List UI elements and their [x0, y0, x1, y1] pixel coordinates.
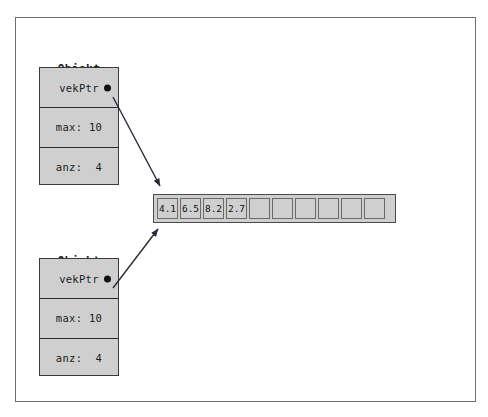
objekt-a-box: vekPtr max: 10 anz: 4	[39, 67, 119, 185]
objekt-b-vekptr-label: vekPtr	[59, 273, 99, 285]
array-cell	[295, 198, 316, 219]
objekt-b-row-anz: anz: 4	[40, 338, 118, 377]
array-cell	[341, 198, 362, 219]
array-cell	[318, 198, 339, 219]
array-cell	[249, 198, 270, 219]
objekt-b-max-value: max: 10	[56, 312, 102, 324]
objekt-b-box: vekPtr max: 10 anz: 4	[39, 258, 119, 376]
objekt-a-pointer-dot-icon	[104, 84, 111, 91]
objekt-b-row-vekptr: vekPtr	[40, 259, 118, 298]
objekt-a-row-vekptr: vekPtr	[40, 68, 118, 107]
objekt-a-max-value: max: 10	[56, 121, 102, 133]
array-cell: 6.5	[180, 198, 201, 219]
objekt-a-row-max: max: 10	[40, 107, 118, 146]
array-cell: 2.7	[226, 198, 247, 219]
array-cell: 4.1	[157, 198, 178, 219]
objekt-a-row-anz: anz: 4	[40, 147, 118, 186]
objekt-b-pointer-dot-icon	[104, 275, 111, 282]
diagram-canvas: Objekt a vekPtr max: 10 anz: 4 Objekt b …	[0, 0, 488, 417]
array-cell: 8.2	[203, 198, 224, 219]
objekt-b-anz-value: anz: 4	[56, 352, 102, 364]
objekt-a-anz-value: anz: 4	[56, 161, 102, 173]
shared-array: 4.16.58.22.7	[153, 194, 396, 223]
objekt-a-vekptr-label: vekPtr	[59, 82, 99, 94]
array-cell	[272, 198, 293, 219]
array-cell	[364, 198, 385, 219]
objekt-b-row-max: max: 10	[40, 298, 118, 337]
